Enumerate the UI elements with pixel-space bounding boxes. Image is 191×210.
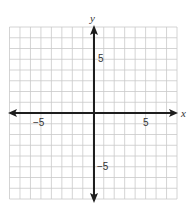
coordinate-plane: x y −5 5 5 −5 xyxy=(0,0,191,210)
y-tick-label-pos5: 5 xyxy=(98,53,104,64)
y-axis-label: y xyxy=(89,12,95,24)
x-tick-label-neg5: −5 xyxy=(33,117,45,128)
y-tick-label-neg5: −5 xyxy=(97,161,109,172)
x-axis-label: x xyxy=(180,107,186,119)
x-tick-label-pos5: 5 xyxy=(143,117,149,128)
